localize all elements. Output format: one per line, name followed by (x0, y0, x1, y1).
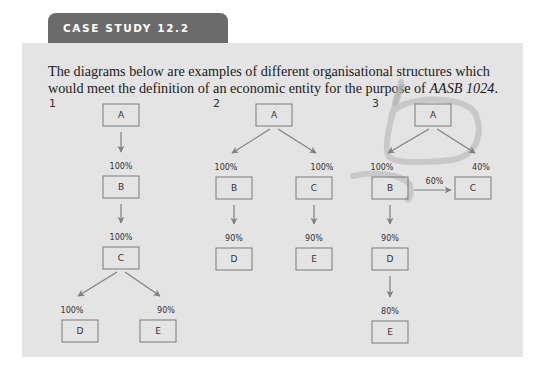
diagram-2-entity-d: D (216, 248, 252, 270)
entity-label: B (118, 182, 124, 192)
diagram-2-ownership-b-d: 90% (225, 234, 243, 243)
entity-label: A (118, 110, 125, 120)
entity-label: D (231, 254, 238, 264)
diagram-3-entity-c: C (455, 177, 491, 199)
diagram-1-entity-c: C (103, 247, 139, 269)
entity-label: B (231, 183, 237, 193)
diagram-3-ownership-a-b: 100% (371, 163, 394, 172)
entity-label: E (155, 326, 161, 336)
diagram-1-ownership-c-d: 100% (61, 306, 84, 315)
diagram-2-arrow-a-c (278, 129, 316, 153)
entity-label: B (387, 183, 393, 193)
diagram-1-entity-d: D (62, 320, 98, 342)
diagram-2-ownership-a-b: 100% (215, 163, 238, 172)
diagram-3-entity-a: A (415, 104, 451, 126)
diagram-1-entity-e: E (140, 320, 176, 342)
diagram-3-entity-e: E (372, 321, 408, 343)
entity-label: C (118, 253, 124, 263)
diagram-2-entity-a: A (256, 104, 292, 126)
diagram-3-entity-d: D (372, 248, 408, 270)
diagram-2-entity-b: B (216, 177, 252, 199)
diagram-1-ownership-b-c: 100% (110, 233, 133, 242)
diagram-3-arrow-a-b (388, 129, 429, 153)
entity-label: C (470, 183, 476, 193)
diagram-2-entity-e: E (296, 248, 332, 270)
diagram-1-entity-a: A (103, 104, 139, 126)
diagram-3-ownership-d-e: 80% (381, 307, 399, 316)
entity-label: A (430, 110, 437, 120)
org-structure-diagrams: ABCDEABCDEABCDE 100%100%100%90%100%100%9… (0, 0, 545, 380)
entity-label: E (311, 254, 317, 264)
diagram-2-ownership-c-e: 90% (305, 234, 323, 243)
diagram-1-ownership-a-b: 100% (110, 162, 133, 171)
diagram-2-entity-c: C (296, 177, 332, 199)
diagram-1-entity-b: B (103, 176, 139, 198)
diagram-3-ownership-b-c: 60% (426, 177, 444, 186)
diagram-2-arrow-a-b (232, 129, 270, 153)
diagram-3-ownership-b-d: 90% (381, 234, 399, 243)
entity-label: E (387, 327, 393, 337)
entity-label: A (271, 110, 278, 120)
diagram-1-ownership-c-e: 90% (157, 306, 175, 315)
diagram-1-arrow-c-d (78, 272, 117, 296)
diagram-1-arrow-c-e (125, 272, 160, 296)
diagram-2-ownership-a-c: 100% (311, 163, 334, 172)
entity-label: D (387, 254, 394, 264)
entity-label: D (77, 326, 84, 336)
entity-label: C (311, 183, 317, 193)
diagram-3-ownership-a-c: 40% (472, 163, 490, 172)
diagram-3-arrow-a-c (437, 129, 475, 153)
